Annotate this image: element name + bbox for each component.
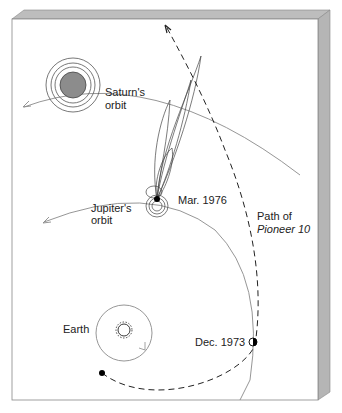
board-top-bevel [12,10,330,19]
saturn-orbit-label-2: orbit [105,99,126,111]
mar-1976-label: Mar. 1976 [178,194,227,206]
saturn-orbit-label-1: Saturn's [105,86,146,98]
dec-1973-label: Dec. 1973 [195,336,245,348]
jupiter-orbit-label-1: Jupiter's [91,202,132,214]
board-right-bevel [318,10,330,400]
earth-dot [99,370,105,376]
dec-1973-marker [249,338,257,346]
jupiter-dot [154,196,160,202]
path-label-1: Path of [257,210,293,222]
earth-label: Earth [63,323,89,335]
path-label-2: Pioneer 10 [257,223,311,235]
pioneer-diagram: Saturn's orbit Jupiter's orbit Mar. 1976… [0,0,342,413]
jupiter-orbit-label-2: orbit [91,214,112,226]
